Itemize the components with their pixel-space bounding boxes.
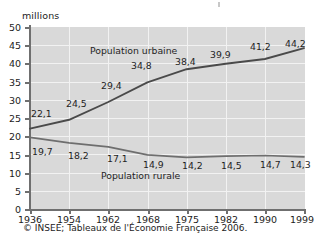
rural-point-label: 14,5 — [221, 160, 242, 171]
rural-point-label: 14,2 — [182, 160, 203, 171]
urban-population-line — [30, 48, 304, 129]
rural-point-label: 18,2 — [68, 150, 89, 161]
urban-point-label: 34,8 — [131, 60, 152, 71]
urban-point-label: 29,4 — [101, 80, 122, 91]
urban-point-label: 38,4 — [175, 56, 196, 67]
series-lines-layer — [0, 0, 319, 238]
rural-point-label: 19,7 — [32, 146, 53, 157]
rural-point-label: 14,7 — [260, 159, 281, 170]
rural-point-label: 17,1 — [107, 153, 128, 164]
rural-point-label: 14,9 — [143, 159, 164, 170]
urban-series-annotation: Population urbaine — [90, 45, 177, 56]
population-chart-figure: millions 50 45 40 35 30 25 20 15 10 5 0 — [0, 0, 319, 238]
rural-point-label: 14,3 — [290, 159, 311, 170]
urban-point-label: 41,2 — [250, 41, 271, 52]
rural-series-annotation: Population rurale — [101, 170, 180, 181]
source-credit: © INSEE; Tableaux de l'Économie Français… — [23, 223, 247, 233]
urban-point-label: 22,1 — [31, 108, 52, 119]
urban-point-label: 39,9 — [210, 49, 231, 60]
urban-point-label: 44,2 — [285, 38, 306, 49]
urban-point-label: 24,5 — [66, 98, 87, 109]
